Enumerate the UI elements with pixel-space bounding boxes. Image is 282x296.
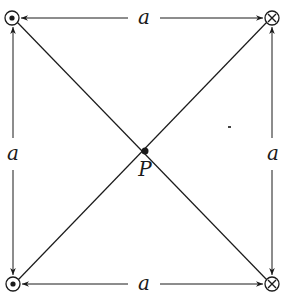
label-top-a: a [138, 5, 150, 29]
label-point-p: P [137, 157, 152, 181]
label-bottom-a: a [138, 271, 150, 295]
label-right-a: a [267, 141, 279, 165]
wire-bottom-left [6, 277, 20, 291]
label-left-a: a [7, 141, 19, 165]
wire-top-right [265, 11, 279, 25]
wire-top-left [5, 11, 19, 25]
square-wires-diagram: a a a a P [0, 0, 282, 296]
speck [228, 126, 231, 128]
diagram-svg: a a a a P [0, 0, 282, 296]
wire-bottom-right [265, 277, 279, 291]
point-p-marker [142, 148, 149, 155]
